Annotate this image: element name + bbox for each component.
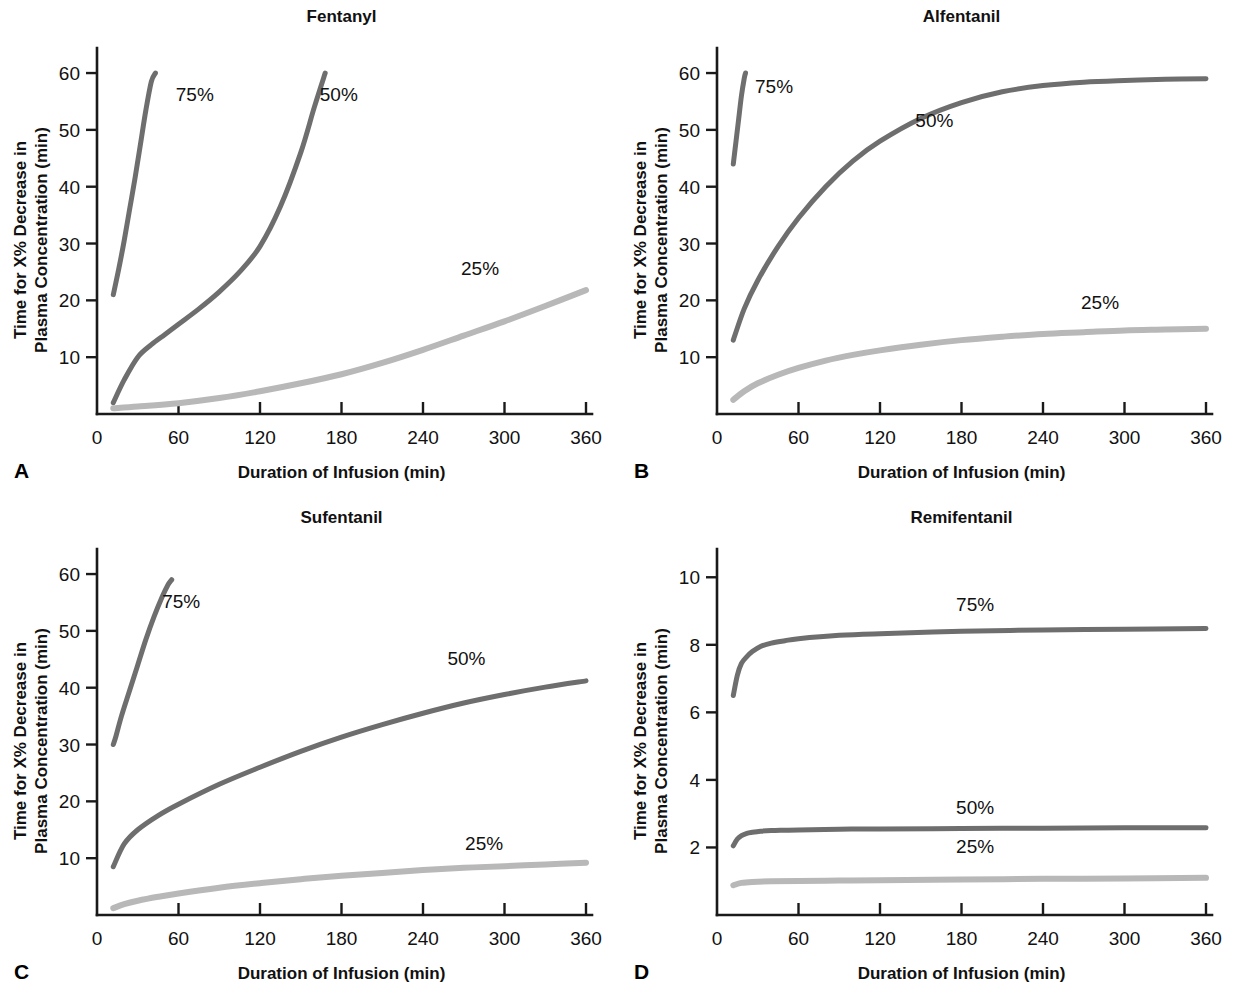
y-tick-label: 60 [59, 63, 80, 84]
chart-sufentanil: Sufentanil102030405060060120180240300360… [0, 501, 619, 1002]
curve-25pct [113, 290, 586, 408]
x-axis-title: Duration of Infusion (min) [238, 964, 446, 983]
y-tick-label: 10 [59, 347, 80, 368]
x-tick-label: 300 [489, 928, 521, 949]
x-tick-label: 240 [407, 427, 439, 448]
y-axis-title: Time for X% Decrease inPlasma Concentrat… [631, 628, 671, 854]
curve-label-75pct: 75% [956, 594, 994, 615]
curve-label-25pct: 25% [465, 833, 503, 854]
x-tick-label: 240 [407, 928, 439, 949]
curve-50pct [733, 79, 1206, 340]
x-tick-label: 180 [946, 427, 978, 448]
svg-text:Time for X% Decrease in: Time for X% Decrease in [631, 141, 650, 339]
x-tick-label: 120 [244, 427, 276, 448]
y-tick-label: 8 [689, 635, 700, 656]
x-axis-title: Duration of Infusion (min) [238, 463, 446, 482]
context-sensitive-halftime-figure: Fentanyl10203040506006012018024030036075… [0, 0, 1239, 1002]
y-tick-label: 2 [689, 837, 700, 858]
x-axis-title: Duration of Infusion (min) [858, 463, 1066, 482]
panel-sufentanil: Sufentanil102030405060060120180240300360… [0, 501, 619, 1002]
x-tick-label: 360 [570, 928, 602, 949]
x-tick-label: 60 [788, 427, 809, 448]
panel-fentanyl: Fentanyl10203040506006012018024030036075… [0, 0, 619, 501]
y-tick-label: 50 [679, 120, 700, 141]
panel-letter: B [634, 459, 649, 482]
svg-text:Time for X% Decrease in: Time for X% Decrease in [631, 642, 650, 840]
curve-label-50pct: 50% [956, 797, 994, 818]
y-tick-label: 20 [679, 290, 700, 311]
y-tick-label: 60 [679, 63, 700, 84]
y-tick-label: 10 [679, 347, 700, 368]
x-tick-label: 120 [864, 928, 896, 949]
y-axis-title: Time for X% Decrease inPlasma Concentrat… [11, 127, 51, 353]
curve-25pct [733, 329, 1206, 400]
y-tick-label: 10 [679, 567, 700, 588]
curve-label-50pct: 50% [320, 84, 358, 105]
y-axis-title: Time for X% Decrease inPlasma Concentrat… [631, 127, 671, 353]
x-tick-label: 0 [92, 427, 103, 448]
panel-title: Alfentanil [923, 7, 1000, 26]
curve-label-25pct: 25% [956, 836, 994, 857]
curve-label-75pct: 75% [162, 591, 200, 612]
x-tick-label: 0 [92, 928, 103, 949]
x-tick-label: 60 [168, 427, 189, 448]
x-tick-label: 180 [326, 928, 358, 949]
x-tick-label: 0 [712, 928, 723, 949]
svg-text:Plasma Concentration (min): Plasma Concentration (min) [652, 628, 671, 854]
y-tick-label: 20 [59, 791, 80, 812]
curve-75pct [733, 629, 1206, 696]
x-tick-label: 120 [864, 427, 896, 448]
panel-title: Sufentanil [300, 508, 382, 527]
x-tick-label: 0 [712, 427, 723, 448]
curve-50pct [113, 681, 586, 867]
y-tick-label: 10 [59, 848, 80, 869]
x-tick-label: 360 [1190, 427, 1222, 448]
x-tick-label: 240 [1027, 427, 1059, 448]
panel-title: Remifentanil [910, 508, 1012, 527]
x-tick-label: 180 [946, 928, 978, 949]
curve-25pct [733, 878, 1206, 885]
panel-letter: C [14, 960, 29, 983]
svg-text:Time for X% Decrease in: Time for X% Decrease in [11, 642, 30, 840]
x-tick-label: 60 [788, 928, 809, 949]
y-tick-label: 30 [59, 735, 80, 756]
x-tick-label: 120 [244, 928, 276, 949]
svg-text:Plasma Concentration (min): Plasma Concentration (min) [32, 628, 51, 854]
x-tick-label: 60 [168, 928, 189, 949]
panel-remifentanil: Remifentanil24681006012018024030036075%5… [620, 501, 1239, 1002]
y-tick-label: 30 [59, 234, 80, 255]
svg-text:Plasma Concentration (min): Plasma Concentration (min) [652, 127, 671, 353]
chart-fentanyl: Fentanyl10203040506006012018024030036075… [0, 0, 619, 501]
chart-alfentanil: Alfentanil102030405060060120180240300360… [620, 0, 1239, 501]
x-tick-label: 300 [1109, 928, 1141, 949]
y-tick-label: 30 [679, 234, 700, 255]
svg-text:Time for X% Decrease in: Time for X% Decrease in [11, 141, 30, 339]
x-tick-label: 240 [1027, 928, 1059, 949]
panel-letter: A [14, 459, 29, 482]
y-tick-label: 4 [689, 770, 700, 791]
curve-75pct [113, 73, 155, 295]
y-tick-label: 50 [59, 120, 80, 141]
curve-25pct [113, 863, 586, 908]
y-tick-label: 40 [59, 177, 80, 198]
y-tick-label: 40 [59, 678, 80, 699]
x-tick-label: 300 [489, 427, 521, 448]
y-tick-label: 50 [59, 621, 80, 642]
panel-alfentanil: Alfentanil102030405060060120180240300360… [620, 0, 1239, 501]
curve-label-50pct: 50% [447, 648, 485, 669]
y-tick-label: 40 [679, 177, 700, 198]
curve-75pct [733, 73, 745, 164]
y-tick-label: 6 [689, 702, 700, 723]
curve-label-75pct: 75% [176, 84, 214, 105]
curve-label-75pct: 75% [755, 76, 793, 97]
x-tick-label: 360 [1190, 928, 1222, 949]
x-tick-label: 180 [326, 427, 358, 448]
curve-label-50pct: 50% [915, 110, 953, 131]
y-axis-title: Time for X% Decrease inPlasma Concentrat… [11, 628, 51, 854]
panel-title: Fentanyl [307, 7, 377, 26]
curve-label-25pct: 25% [1081, 292, 1119, 313]
x-axis-title: Duration of Infusion (min) [858, 964, 1066, 983]
chart-remifentanil: Remifentanil24681006012018024030036075%5… [620, 501, 1239, 1002]
panel-letter: D [634, 960, 649, 983]
x-tick-label: 300 [1109, 427, 1141, 448]
